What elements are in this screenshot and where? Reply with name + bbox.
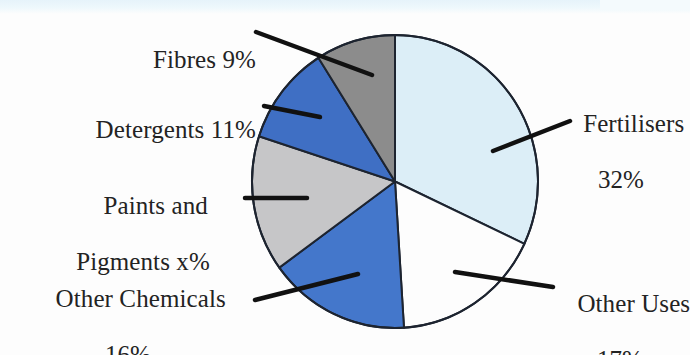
- pie-chart-figure: Fibres 9% Detergents 11% Paints and Pigm…: [0, 0, 690, 355]
- slice-label-fertilisers-line1: Fertilisers: [583, 110, 684, 137]
- slice-label-other-chemicals: Other Chemicals 16%: [18, 257, 238, 355]
- slice-label-detergents-text: Detergents 11%: [96, 116, 256, 143]
- slice-label-other-uses-line1: Other Uses: [577, 290, 690, 317]
- slice-label-fibres-text: Fibres 9%: [153, 46, 256, 73]
- pie-slice-group: [252, 35, 538, 328]
- slice-label-other-chemicals-line2: 16%: [18, 341, 238, 355]
- slice-label-other-uses: Other Uses 17%: [552, 262, 688, 355]
- slice-label-fertilisers: Fertilisers 32%: [554, 82, 688, 250]
- slice-label-other-uses-line2: 17%: [552, 346, 688, 355]
- slice-label-detergents: Detergents 11%: [8, 88, 256, 172]
- slice-label-paints-line1: Paints and: [103, 192, 207, 219]
- slice-label-fertilisers-line2: 32%: [554, 166, 688, 194]
- slice-label-other-chemicals-line1: Other Chemicals: [56, 285, 226, 312]
